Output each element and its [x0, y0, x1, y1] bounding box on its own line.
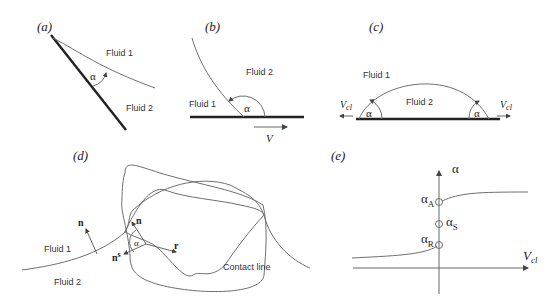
panel-e-label: (e)	[331, 148, 345, 163]
normal-inner-label: n	[136, 215, 142, 226]
interface-curve	[53, 38, 155, 88]
panel-a-label: (a)	[37, 19, 52, 34]
velocity-left-label: Vcl	[340, 99, 353, 112]
angle-alpha-left: α	[366, 107, 372, 119]
panel-c: (c) α α Fluid 1 Fluid 2 Vcl Vcl	[340, 19, 513, 119]
angle-alpha: α	[134, 238, 139, 248]
panel-c-label: (c)	[369, 19, 383, 34]
alpha-s-label: αS	[446, 214, 458, 232]
panel-b-label: (b)	[205, 19, 220, 34]
x-axis-label: Vcl	[523, 248, 538, 265]
angle-alpha: α	[90, 70, 96, 82]
angle-arc-left	[370, 100, 382, 119]
angle-alpha-right: α	[474, 107, 480, 119]
normal-outer-label: n	[78, 217, 84, 228]
fluid2-label: Fluid 2	[246, 67, 273, 77]
panel-d-label: (d)	[73, 148, 88, 163]
fluid2-label: Fluid 2	[406, 97, 433, 107]
alpha-a-label: αA	[421, 191, 435, 209]
receding-curve	[352, 246, 437, 258]
solid-surface-outline	[122, 165, 266, 292]
panel-d: (d) n n r ns α Fluid 1 Fluid 2 Contact l…	[22, 148, 310, 292]
solid-normal-label: ns	[112, 250, 121, 263]
fluid2-label: Fluid 2	[126, 103, 153, 113]
contact-line-label: Contact line	[223, 262, 271, 272]
radial-label: r	[174, 240, 179, 251]
fluid1-label: Fluid 1	[106, 48, 133, 58]
panel-e: (e) α Vcl αA αS αR	[331, 148, 538, 294]
fluid1-label: Fluid 1	[44, 244, 71, 254]
fluid1-label: Fluid 1	[189, 99, 216, 109]
alpha-r-label: αR	[421, 231, 434, 249]
angle-alpha: α	[244, 102, 250, 114]
figure-canvas: (a) α Fluid 1 Fluid 2 (b) α Fluid 2 Flui…	[0, 0, 552, 308]
normal-vector-outer	[86, 229, 97, 254]
velocity-right-label: Vcl	[500, 99, 513, 112]
y-axis-label: α	[452, 161, 459, 176]
advancing-curve	[442, 192, 528, 201]
fluid2-label: Fluid 2	[54, 277, 81, 287]
panel-b: (b) α Fluid 2 Fluid 1 V	[189, 19, 304, 144]
panel-a: (a) α Fluid 1 Fluid 2	[37, 19, 155, 130]
velocity-label: V	[266, 132, 274, 144]
fluid1-label: Fluid 1	[363, 70, 390, 80]
